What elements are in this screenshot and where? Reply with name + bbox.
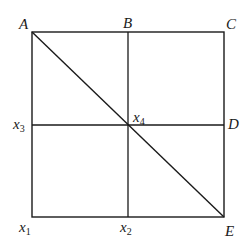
label-x4-subscript: 4 — [140, 116, 145, 127]
label-x2-subscript: 2 — [127, 226, 132, 237]
label-x2-base: x — [120, 219, 127, 235]
label-x1-subscript: 1 — [26, 226, 31, 237]
label-x4-base: x — [133, 109, 140, 125]
label-x1: x1 — [19, 220, 31, 237]
label-a: A — [19, 17, 28, 32]
label-x3-base: x — [13, 116, 20, 132]
label-e: E — [225, 224, 234, 239]
label-x1-base: x — [19, 219, 26, 235]
label-b: B — [123, 16, 132, 31]
label-d: D — [228, 117, 239, 132]
label-x3: x3 — [13, 117, 25, 134]
label-x3-subscript: 3 — [20, 123, 25, 134]
label-x4: x4 — [133, 110, 145, 127]
label-x2: x2 — [120, 220, 132, 237]
square-diagram — [0, 0, 251, 246]
label-c: C — [226, 17, 236, 32]
